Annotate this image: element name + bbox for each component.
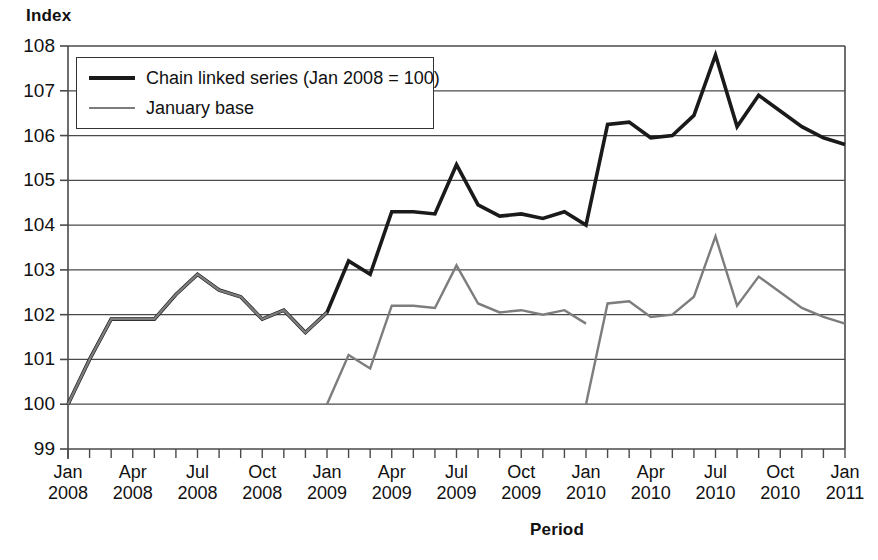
- legend-item: January base: [89, 93, 254, 123]
- x-tick-year: 2010: [760, 483, 800, 504]
- legend-label: Chain linked series (Jan 2008 = 100): [146, 68, 440, 89]
- x-tick-label: Apr2009: [372, 462, 412, 504]
- x-tick-month: Jan: [826, 462, 865, 483]
- x-tick-month: Oct: [760, 462, 800, 483]
- x-tick-label: Jul2010: [695, 462, 735, 504]
- x-tick-label: Jul2009: [436, 462, 476, 504]
- x-tick-year: 2011: [826, 483, 865, 504]
- legend-swatch-icon: [89, 76, 135, 80]
- x-tick-year: 2008: [48, 483, 88, 504]
- x-tick-year: 2010: [695, 483, 735, 504]
- x-tick-year: 2009: [436, 483, 476, 504]
- x-axis-title-text: Period: [530, 520, 584, 539]
- x-tick-year: 2008: [177, 483, 217, 504]
- x-tick-month: Jul: [177, 462, 217, 483]
- x-tick-year: 2009: [501, 483, 541, 504]
- x-tick-year: 2008: [242, 483, 282, 504]
- x-tick-label: Jul2008: [177, 462, 217, 504]
- legend-label: January base: [146, 98, 254, 119]
- x-tick-month: Apr: [113, 462, 153, 483]
- x-tick-label: Jan2010: [566, 462, 606, 504]
- x-tick-month: Oct: [242, 462, 282, 483]
- x-tick-month: Apr: [372, 462, 412, 483]
- legend-swatch-icon: [89, 107, 135, 109]
- x-tick-month: Jan: [48, 462, 88, 483]
- x-tick-month: Jan: [307, 462, 347, 483]
- x-tick-label: Oct2010: [760, 462, 800, 504]
- x-tick-month: Apr: [631, 462, 671, 483]
- x-tick-label: Apr2010: [631, 462, 671, 504]
- x-tick-year: 2008: [113, 483, 153, 504]
- x-tick-month: Jul: [436, 462, 476, 483]
- x-tick-month: Jan: [566, 462, 606, 483]
- x-axis-title: Period: [0, 520, 878, 540]
- x-tick-year: 2009: [307, 483, 347, 504]
- x-tick-label: Apr2008: [113, 462, 153, 504]
- chart-legend: Chain linked series (Jan 2008 = 100)Janu…: [76, 57, 434, 129]
- x-tick-year: 2010: [566, 483, 606, 504]
- chart-container: Index 99100101102103104105106107108 Jan2…: [0, 0, 878, 560]
- legend-item: Chain linked series (Jan 2008 = 100): [89, 63, 440, 93]
- x-tick-label: Jan2009: [307, 462, 347, 504]
- x-tick-month: Oct: [501, 462, 541, 483]
- x-tick-label: Jan2008: [48, 462, 88, 504]
- x-tick-label: Oct2008: [242, 462, 282, 504]
- x-tick-month: Jul: [695, 462, 735, 483]
- x-tick-label: Oct2009: [501, 462, 541, 504]
- x-tick-year: 2009: [372, 483, 412, 504]
- x-tick-year: 2010: [631, 483, 671, 504]
- x-tick-label: Jan2011: [826, 462, 865, 504]
